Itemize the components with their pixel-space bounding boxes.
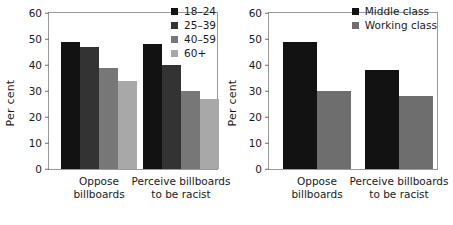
legend-item-label: Middle class (365, 6, 429, 17)
legend-item: Working class (352, 20, 437, 31)
y-axis-title-right: Per cent (226, 18, 240, 188)
legend-swatch-icon (171, 50, 178, 57)
chart-panel-class: Per cent 0102030405060 OpposebillboardsP… (222, 0, 443, 225)
legend-swatch-icon (352, 8, 359, 15)
legend-item: 18–24 (171, 6, 216, 17)
y-axis-tick-label: 10 (242, 138, 262, 149)
legend-item: Middle class (352, 6, 437, 17)
legend-swatch-icon (352, 22, 359, 29)
y-axis-tick-label: 60 (242, 8, 262, 19)
bar (181, 91, 200, 169)
y-axis-tick: 20 (242, 112, 269, 123)
y-axis-tick-label: 50 (242, 34, 262, 45)
bar (200, 99, 219, 169)
y-axis-tick-label: 40 (242, 60, 262, 71)
x-axis-category-line: Perceive billboards (344, 175, 453, 188)
legend-swatch-icon (171, 22, 178, 29)
y-axis-tick: 50 (22, 34, 49, 45)
legend-item-label: 60+ (184, 48, 206, 59)
y-axis-tick: 10 (22, 138, 49, 149)
x-axis-category-line: to be racist (344, 188, 453, 201)
chart-panel-age: Per cent 0102030405060 OpposebillboardsP… (0, 0, 222, 225)
legend-left: 18–2425–3940–5960+ (171, 6, 216, 59)
y-axis-tick-label: 30 (22, 86, 42, 97)
y-axis-tick-label: 20 (22, 112, 42, 123)
y-axis-tick: 0 (22, 164, 49, 175)
bar-group (283, 13, 351, 169)
bar (80, 47, 99, 169)
y-axis-tick: 30 (242, 86, 269, 97)
y-axis-tick-label: 60 (22, 8, 42, 19)
y-axis-tick-label: 50 (22, 34, 42, 45)
y-axis-tick-label: 0 (242, 164, 262, 175)
bar (118, 81, 137, 169)
y-axis-tick-label: 40 (22, 60, 42, 71)
bar (61, 42, 80, 169)
bar (283, 42, 317, 169)
y-axis-tick-label: 10 (22, 138, 42, 149)
bar (399, 96, 433, 169)
y-axis-title-left: Per cent (4, 18, 18, 188)
bar (143, 44, 162, 169)
bar-group (365, 13, 433, 169)
y-axis-tick-label: 20 (242, 112, 262, 123)
bar (99, 68, 118, 169)
y-axis-tick: 60 (22, 8, 49, 19)
x-axis-category-line: to be racist (126, 188, 236, 201)
y-axis-tick: 60 (242, 8, 269, 19)
legend-swatch-icon (171, 8, 178, 15)
legend-item-label: Working class (365, 20, 437, 31)
x-axis-category-line: Perceive billboards (126, 175, 236, 188)
bar (162, 65, 181, 169)
y-axis-tick: 30 (22, 86, 49, 97)
legend-swatch-icon (171, 36, 178, 43)
y-axis-tick: 40 (22, 60, 49, 71)
legend-right: Middle classWorking class (352, 6, 437, 31)
legend-item-label: 25–39 (184, 20, 216, 31)
x-axis-labels-right: OpposebillboardsPerceive billboardsto be… (269, 169, 437, 209)
y-axis-tick: 0 (242, 164, 269, 175)
legend-item: 25–39 (171, 20, 216, 31)
x-axis-category-label: Perceive billboardsto be racist (126, 175, 236, 201)
bar-group (61, 13, 137, 169)
y-axis-tick: 50 (242, 34, 269, 45)
legend-item-label: 40–59 (184, 34, 216, 45)
y-axis-tick-label: 30 (242, 86, 262, 97)
y-axis-tick: 20 (22, 112, 49, 123)
y-axis-tick: 10 (242, 138, 269, 149)
y-axis-tick: 40 (242, 60, 269, 71)
x-axis-category-label: Perceive billboardsto be racist (344, 175, 453, 201)
legend-item: 40–59 (171, 34, 216, 45)
y-axis-tick-label: 0 (22, 164, 42, 175)
bar (317, 91, 351, 169)
legend-item-label: 18–24 (184, 6, 216, 17)
bar-group-container-right (269, 13, 437, 169)
plot-area-right: 0102030405060 OpposebillboardsPerceive b… (268, 12, 438, 170)
legend-item: 60+ (171, 48, 216, 59)
bar (365, 70, 399, 169)
x-axis-labels-left: OpposebillboardsPerceive billboardsto be… (49, 169, 217, 209)
